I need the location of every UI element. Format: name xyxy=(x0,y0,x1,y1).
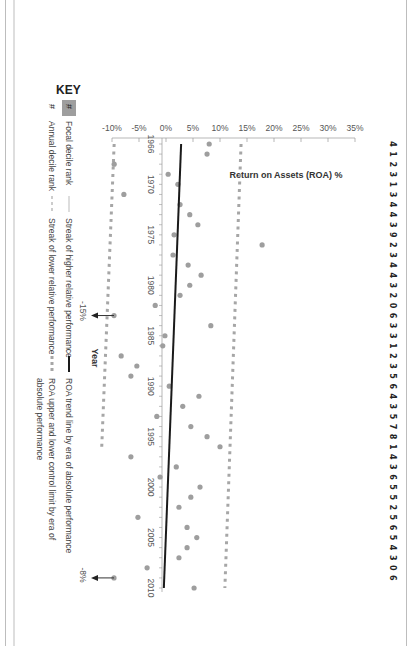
roa-tick-label: -10% xyxy=(102,123,122,133)
year-tick-label: 1995 xyxy=(146,427,156,446)
rank-digit: 4 xyxy=(388,393,397,399)
rank-digit: 4 xyxy=(388,212,397,218)
rank-digit: 3 xyxy=(388,192,397,198)
roa-point xyxy=(187,212,192,217)
annotation-1983: -15% xyxy=(78,301,88,321)
roa-point xyxy=(121,192,126,197)
roa-point xyxy=(170,252,175,257)
arrow-down-icon xyxy=(91,575,98,581)
rank-digit: 9 xyxy=(388,232,397,238)
roa-tick-label: 10% xyxy=(211,123,228,133)
rank-digit: 3 xyxy=(388,363,397,369)
year-tick-label: 2005 xyxy=(146,528,156,547)
roa-point xyxy=(199,273,204,278)
roa-point xyxy=(180,404,185,409)
roa-tick-label: 35% xyxy=(346,123,363,133)
rank-digit: 3 xyxy=(388,252,397,258)
trend-line xyxy=(164,144,181,588)
rank-digit: 4 xyxy=(388,454,397,460)
rank-digit: 2 xyxy=(388,504,397,510)
roa-point xyxy=(195,222,200,227)
roa-point xyxy=(174,464,179,469)
year-tick-label: 1985 xyxy=(146,326,156,345)
legend-title: KEY xyxy=(56,83,81,97)
rank-digit: 3 xyxy=(388,171,397,177)
roa-point xyxy=(176,555,181,560)
roa-point xyxy=(204,151,209,156)
rank-digit: 1 xyxy=(388,444,397,450)
roa-point xyxy=(172,232,177,237)
rank-digit: 5 xyxy=(388,535,397,541)
rank-digit: 2 xyxy=(388,242,397,248)
roa-point xyxy=(207,141,212,146)
lower-control-limit xyxy=(102,144,114,447)
rank-digit: 3 xyxy=(388,222,397,228)
rank-digit: 5 xyxy=(388,373,397,379)
rank-digit: 3 xyxy=(388,282,397,288)
year-tick-label: 1970 xyxy=(146,175,156,194)
roa-point xyxy=(162,333,167,338)
roa-point xyxy=(128,373,133,378)
rank-digit: 5 xyxy=(388,515,397,521)
roa-point xyxy=(128,454,133,459)
roa-axis: 35%30%25%20%15%10%5%0%-5%-10% xyxy=(102,123,364,142)
roa-point xyxy=(135,515,140,520)
roa-point xyxy=(119,353,124,358)
legend: KEY # Focal decile rank # Annual decile … xyxy=(35,83,81,554)
roa-point xyxy=(208,323,213,328)
rank-digit: 0 xyxy=(388,303,397,309)
rank-digit: 4 xyxy=(388,202,397,208)
roa-point xyxy=(160,343,165,348)
roa-tick-label: 0% xyxy=(160,123,173,133)
legend-control-1: ROA upper and lower control limit by era… xyxy=(47,378,57,541)
annual-rank-symbol: # xyxy=(47,104,57,109)
roa-chart: 4123134439234432063312356435781436552565… xyxy=(0,0,414,646)
control-limits xyxy=(102,144,241,588)
legend-higher-streak: Streak of higher relative performance xyxy=(64,218,74,358)
roa-tick-label: 20% xyxy=(265,123,282,133)
rank-digit: 4 xyxy=(388,262,397,268)
legend-annual-rank: Annual decile rank xyxy=(47,121,57,192)
legend-lower-streak: Streak of lower relative performance xyxy=(47,218,57,355)
legend-focal-rank: Focal decile rank xyxy=(64,121,74,186)
roa-point xyxy=(188,495,193,500)
roa-point xyxy=(204,434,209,439)
rank-digit: 5 xyxy=(388,484,397,490)
roa-point xyxy=(186,262,191,267)
year-tick-label: 2010 xyxy=(146,579,156,598)
roa-tick-label: 15% xyxy=(238,123,255,133)
rank-digit: 6 xyxy=(388,525,397,531)
roa-point xyxy=(154,414,159,419)
roa-point xyxy=(197,484,202,489)
rank-digit: 3 xyxy=(388,333,397,339)
rank-digit: 1 xyxy=(388,151,397,157)
roa-point xyxy=(191,585,196,590)
rank-digit: 4 xyxy=(388,545,397,551)
roa-point xyxy=(187,283,192,288)
roa-point xyxy=(112,162,117,167)
rank-digit: 6 xyxy=(388,575,397,581)
rank-digit: 7 xyxy=(388,424,397,430)
rank-digit: 3 xyxy=(388,404,397,410)
roa-point xyxy=(184,525,189,530)
roa-point xyxy=(196,394,201,399)
annotation-2009: -8% xyxy=(78,567,88,583)
roa-point xyxy=(134,363,139,368)
legend-trend: ROA trend line by era of absolute perfor… xyxy=(64,378,74,554)
focal-rank-symbol: # xyxy=(64,104,74,109)
roa-tick-label: -5% xyxy=(131,123,147,133)
annual-decile-rank-strip: 4123134439234432063312356435781436552565… xyxy=(388,141,397,581)
roa-point xyxy=(188,424,193,429)
roa-tick-label: 30% xyxy=(319,123,336,133)
roa-point xyxy=(157,474,162,479)
off-scale-annotations: -15% -8% xyxy=(78,301,88,583)
rank-digit: 3 xyxy=(388,464,397,470)
year-tick-label: 2000 xyxy=(146,478,156,497)
rotated-chart-canvas: 4123134439234432063312356435781436552565… xyxy=(0,0,414,646)
year-tick-label: 1980 xyxy=(146,276,156,295)
roa-trend-line xyxy=(164,144,181,588)
roa-point xyxy=(184,545,189,550)
rank-digit: 8 xyxy=(388,434,397,440)
rank-digit: 3 xyxy=(388,555,397,561)
legend-control-2: absolute performance xyxy=(35,378,45,460)
